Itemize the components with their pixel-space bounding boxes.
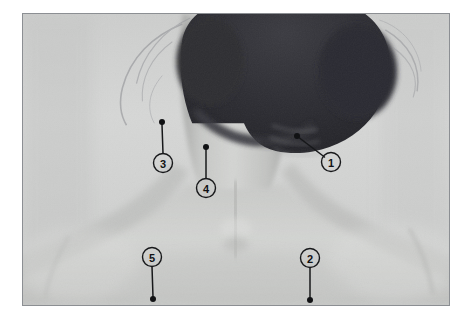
photo-frame — [22, 13, 450, 306]
marker-3-leader — [162, 125, 163, 154]
marker-5-label: 5 — [149, 252, 155, 264]
marker-4-point — [203, 144, 209, 150]
marker-3-point — [159, 119, 165, 125]
photo-grain — [23, 14, 449, 305]
marker-5-point — [150, 296, 156, 302]
marker-3-label: 3 — [160, 158, 166, 170]
marker-2-point — [307, 297, 313, 303]
anatomy-photograph — [23, 14, 449, 305]
marker-4-label: 4 — [203, 183, 210, 195]
marker-5-leader — [152, 267, 153, 298]
figure-page: 1 2 3 4 5 — [0, 0, 471, 326]
marker-1-point — [294, 133, 300, 139]
marker-2-label: 2 — [307, 253, 313, 265]
marker-1-label: 1 — [328, 157, 334, 169]
